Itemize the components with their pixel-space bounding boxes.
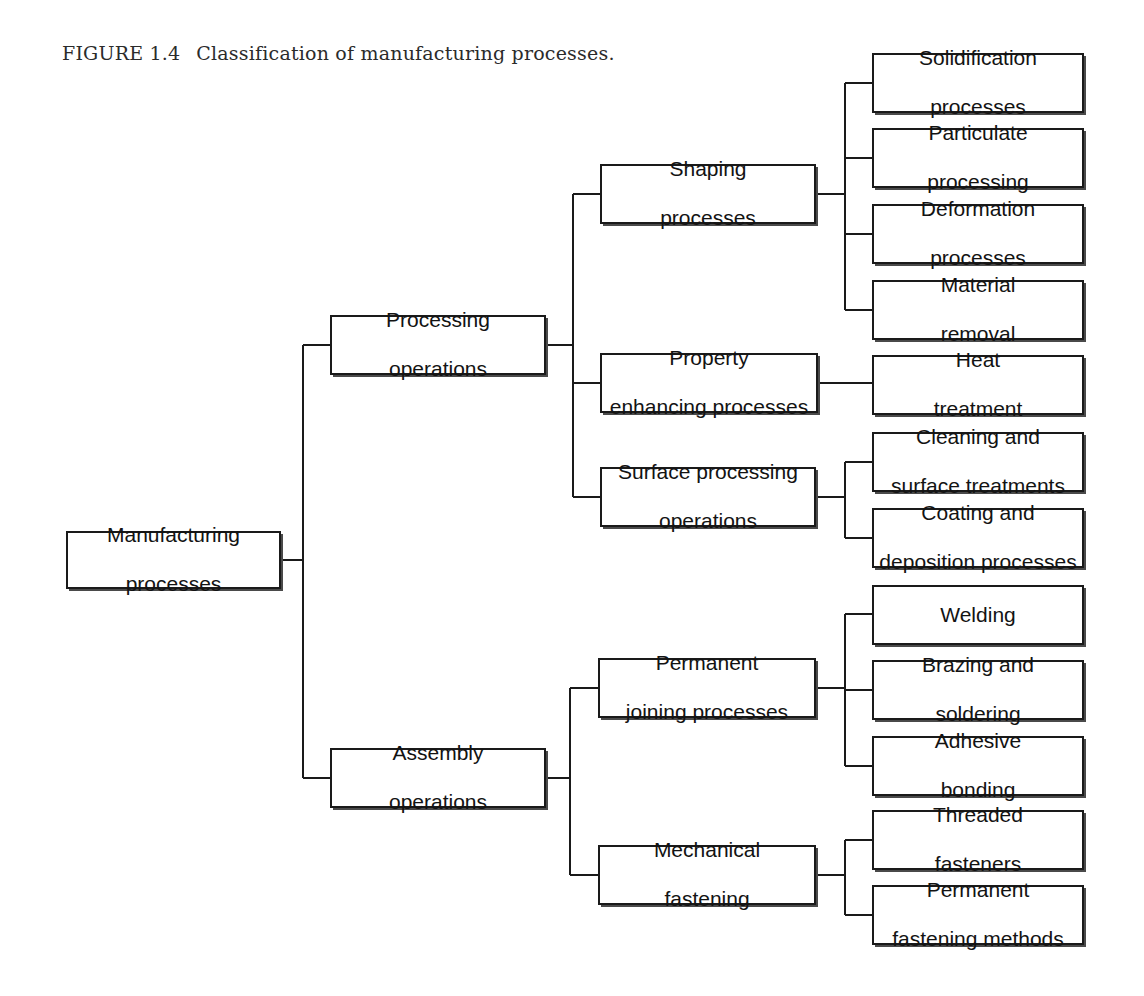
node-label-line1: Mechanical [604,838,810,862]
node-label: Shaping processes [606,157,810,230]
node-property-enhancing-processes[interactable]: Property enhancing processes [600,353,818,413]
node-label-line1: Permanent [878,878,1078,902]
node-label-line1: Property [606,346,812,370]
node-label-line1: Heat [878,348,1078,372]
node-label-line1: Deformation [878,197,1078,221]
node-label-line1: Particulate [878,121,1078,145]
node-label-line2: processes [72,572,275,596]
figure-label: FIGURE 1.4 [62,42,180,64]
node-assembly-operations[interactable]: Assembly operations [330,748,546,808]
node-manufacturing-processes[interactable]: Manufacturing processes [66,531,281,589]
node-cleaning-and-surface-treatments[interactable]: Cleaning and surface treatments [872,432,1084,492]
node-surface-processing-operations[interactable]: Surface processing operations [600,467,816,527]
node-label-line1: Material [878,273,1078,297]
node-label: Cleaning and surface treatments [878,425,1078,498]
node-label-line1: Assembly [336,741,540,765]
node-permanent-fastening-methods[interactable]: Permanent fastening methods [872,885,1084,945]
node-label: Property enhancing processes [606,346,812,419]
node-label-line1: Processing [336,308,540,332]
node-label: Permanent fastening methods [878,878,1078,951]
node-label-line2: deposition processes [878,550,1078,574]
node-label-line1: Cleaning and [878,425,1078,449]
node-label-line1: Brazing and [878,653,1078,677]
node-label: Solidification processes [878,46,1078,119]
node-label-line2: soldering [878,702,1078,726]
node-label: Brazing and soldering [878,653,1078,726]
node-label-line2: operations [336,790,540,814]
node-label: Coating and deposition processes [878,501,1078,574]
node-threaded-fasteners[interactable]: Threaded fasteners [872,810,1084,870]
node-label-line1: Threaded [878,803,1078,827]
node-label-line2: fasteners [878,852,1078,876]
figure-container: FIGURE 1.4Classification of manufacturin… [0,0,1144,996]
node-label: Deformation processes [878,197,1078,270]
node-solidification-processes[interactable]: Solidification processes [872,53,1084,113]
node-particulate-processing[interactable]: Particulate processing [872,128,1084,188]
node-label: Adhesive bonding [878,729,1078,802]
node-adhesive-bonding[interactable]: Adhesive bonding [872,736,1084,796]
node-label-line2: removal [878,322,1078,346]
node-label-line2: processes [878,246,1078,270]
node-mechanical-fastening[interactable]: Mechanical fastening [598,845,816,905]
node-label-line1: Adhesive [878,729,1078,753]
node-label-line1: Permanent [604,651,810,675]
node-label-line2: processes [878,95,1078,119]
node-label-line2: surface treatments [878,474,1078,498]
node-label-line2: processes [606,206,810,230]
node-label-line2: fastening [604,887,810,911]
node-label-line2: fastening methods [878,927,1078,951]
node-label: Manufacturing processes [72,523,275,596]
node-label: Heat treatment [878,348,1078,421]
node-label-line1: Shaping [606,157,810,181]
node-label-line1: Surface processing [606,460,810,484]
figure-caption: FIGURE 1.4Classification of manufacturin… [62,42,615,64]
node-heat-treatment[interactable]: Heat treatment [872,355,1084,415]
figure-caption-text: Classification of manufacturing processe… [196,42,614,64]
node-label: Mechanical fastening [604,838,810,911]
node-welding[interactable]: Welding [872,585,1084,645]
node-material-removal[interactable]: Material removal [872,280,1084,340]
node-label: Welding [878,603,1078,627]
node-label: Threaded fasteners [878,803,1078,876]
node-label: Processing operations [336,308,540,381]
node-label: Material removal [878,273,1078,346]
node-label-line2: enhancing processes [606,395,812,419]
node-label: Permanent joining processes [604,651,810,724]
node-label-line2: joining processes [604,700,810,724]
node-permanent-joining-processes[interactable]: Permanent joining processes [598,658,816,718]
node-label-line2: bonding [878,778,1078,802]
node-coating-and-deposition-processes[interactable]: Coating and deposition processes [872,508,1084,568]
node-deformation-processes[interactable]: Deformation processes [872,204,1084,264]
node-label-line1: Solidification [878,46,1078,70]
node-label: Surface processing operations [606,460,810,533]
node-processing-operations[interactable]: Processing operations [330,315,546,375]
node-label-line2: operations [606,509,810,533]
node-label: Particulate processing [878,121,1078,194]
node-label-line2: operations [336,357,540,381]
node-brazing-and-soldering[interactable]: Brazing and soldering [872,660,1084,720]
node-label-line1: Manufacturing [72,523,275,547]
node-shaping-processes[interactable]: Shaping processes [600,164,816,224]
node-label-line2: processing [878,170,1078,194]
node-label: Assembly operations [336,741,540,814]
node-label-line1: Coating and [878,501,1078,525]
node-label-line2: treatment [878,397,1078,421]
